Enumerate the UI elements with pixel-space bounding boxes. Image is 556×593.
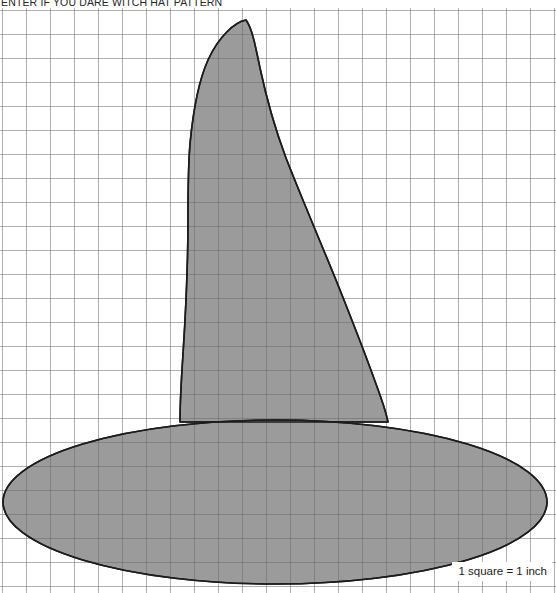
witch-hat-outline <box>0 8 556 593</box>
pattern-page: ENTER IF YOU DARE WITCH HAT PATTERN <box>0 0 556 593</box>
hat-cone-outline <box>180 20 388 422</box>
hat-brim-outline <box>3 420 547 584</box>
page-title: ENTER IF YOU DARE WITCH HAT PATTERN <box>1 0 222 8</box>
grid-pattern-area <box>0 8 556 593</box>
scale-legend: 1 square = 1 inch <box>452 562 552 581</box>
